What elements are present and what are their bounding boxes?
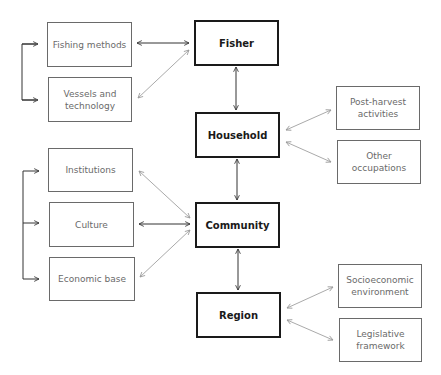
node-community: Community [195,202,280,248]
node-fisher: Fisher [194,20,279,66]
node-economic-base: Economic base [49,257,135,301]
node-region: Region [196,292,281,338]
node-socioeconomic: Socioeconomic environment [338,264,422,308]
node-fishing-methods: Fishing methods [47,22,132,67]
node-vessels-technology: Vessels and technology [48,77,132,122]
node-post-harvest: Post-harvest activities [336,86,420,130]
node-other-occupations: Other occupations [337,140,421,184]
arrow-fisher-vessels [138,50,189,98]
arrow-household-post-harvest [286,110,331,130]
arrow-region-legislative [287,320,333,340]
bracket-fisher-factors [22,44,36,100]
arrow-region-socioeconomic [287,287,333,308]
node-household: Household [195,112,280,158]
arrow-community-economic-base [140,230,190,277]
arrow-household-other-occupations [286,142,331,162]
arrow-community-institutions [139,171,190,218]
node-culture: Culture [49,202,134,247]
node-institutions: Institutions [48,148,133,192]
node-legislative: Legislative framework [339,318,422,362]
